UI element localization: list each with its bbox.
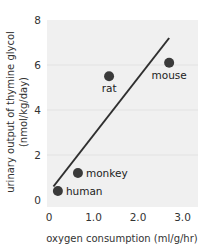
y-tick-label: 4 <box>34 104 41 116</box>
point-marker <box>53 186 63 196</box>
x-axis-label: oxygen consumption (ml/g/hr) <box>46 233 198 244</box>
point-label: mouse <box>152 69 187 81</box>
point-marker <box>73 168 83 178</box>
point-label: rat <box>102 82 117 94</box>
scatter-chart: 02468 01.02.03.0 humanmonkeyratmouse oxy… <box>0 0 207 250</box>
y-axis-ticks: 02468 <box>34 14 41 206</box>
y-tick-label: 2 <box>34 149 41 161</box>
point-marker <box>164 58 174 68</box>
point-label: human <box>66 185 103 197</box>
data-point-human: human <box>53 185 103 197</box>
y-axis-label: urinary output of thymine glycol <box>5 31 16 193</box>
point-label: monkey <box>86 167 128 179</box>
y-tick-label: 6 <box>34 59 41 71</box>
x-tick-label: 3.0 <box>174 211 191 223</box>
x-tick-label: 2.0 <box>130 211 147 223</box>
x-tick-label: 1.0 <box>85 211 102 223</box>
point-marker <box>104 71 114 81</box>
y-tick-label: 8 <box>34 14 41 26</box>
y-axis-units: (nmol/kg/day) <box>18 77 29 147</box>
x-axis-ticks: 01.02.03.0 <box>46 211 191 223</box>
y-tick-label: 0 <box>34 194 41 206</box>
x-tick-label: 0 <box>46 211 53 223</box>
